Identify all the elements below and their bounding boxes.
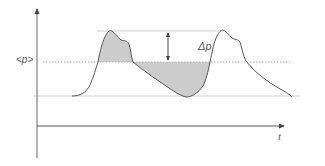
area-above-mean — [98, 31, 133, 62]
diagram-canvas — [0, 0, 325, 166]
mean-label: <p> — [16, 54, 33, 65]
x-axis-label: t — [278, 130, 281, 142]
delta-p-label: Δp — [198, 40, 212, 52]
pressure-diagram: <p> Δp t — [0, 0, 325, 166]
